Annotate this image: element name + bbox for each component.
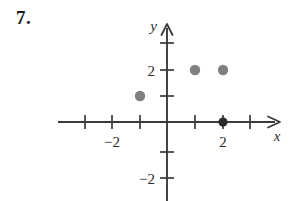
x-tick-label-negative-2: −2 — [104, 134, 120, 150]
y-tick-label-2: 2 — [148, 63, 156, 79]
coordinate-plane-graph: −2 2 2 −2 y x — [0, 0, 292, 201]
data-point — [135, 91, 145, 101]
y-axis-label: y — [148, 18, 157, 34]
x-axis-label: x — [273, 128, 281, 144]
x-tick-label-2: 2 — [219, 134, 227, 150]
worksheet-problem-figure: 7. −2 2 2 −2 — [0, 0, 292, 201]
data-point — [218, 117, 227, 126]
data-point — [218, 65, 228, 75]
data-point — [190, 65, 200, 75]
y-tick-label-negative-2: −2 — [139, 171, 155, 187]
